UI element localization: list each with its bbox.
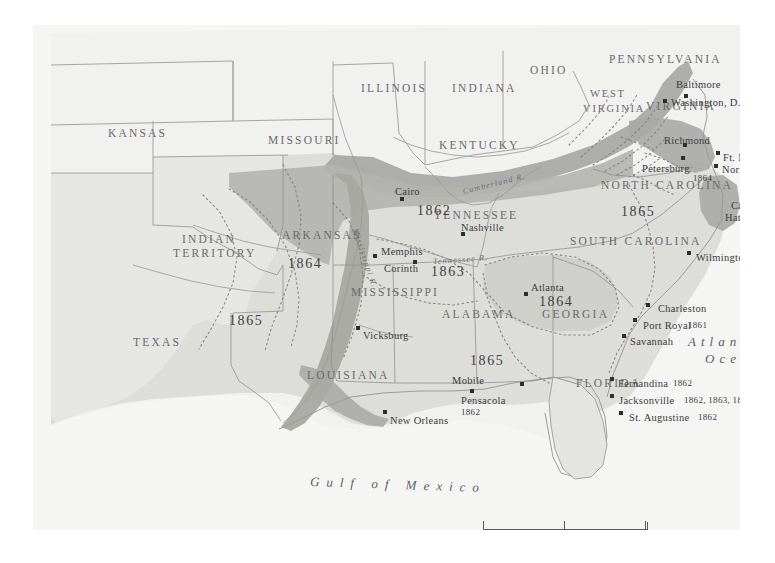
state-label-west: WEST xyxy=(590,89,626,100)
city-label-petersburg: Petersburg xyxy=(642,164,690,175)
city-label-jacksonville: Jacksonville xyxy=(619,396,675,407)
city-year-2: 1864 xyxy=(693,174,712,183)
civil-war-map: KANSASMISSOURIILLINOISINDIANAOHIOPENNSYL… xyxy=(33,25,740,530)
state-label-alabama: ALABAMA xyxy=(442,309,516,321)
city-marker-vicksburg xyxy=(356,326,360,330)
campaign-year-1864-2: 1864 xyxy=(288,257,322,271)
city-label-washington-d-c: Washington, D.C. xyxy=(671,98,740,109)
city-marker-washington-d-c xyxy=(663,99,667,103)
campaign-year-1864-4: 1864 xyxy=(539,295,573,309)
state-label-indiana: INDIANA xyxy=(452,83,517,95)
campaign-year-1865-6: 1865 xyxy=(621,205,655,219)
water-label-atlantic: Atlantic xyxy=(688,335,740,348)
state-label-texas: TEXAS xyxy=(133,337,181,349)
city-label-ft-monroe: Ft. Monroe xyxy=(723,153,740,164)
state-label-louisiana: LOUISIANA xyxy=(307,370,389,382)
city-marker-st-augustine xyxy=(619,411,623,415)
water-label-ocean: Ocean xyxy=(705,352,740,365)
state-label-virginia: VIRGINIA xyxy=(583,104,645,115)
city-label-st-augustine: St. Augustine xyxy=(629,413,690,424)
city-label-charleston: Charleston xyxy=(658,304,707,315)
city-label-port-royal: Port Royal xyxy=(643,321,691,332)
state-label-indian: INDIAN xyxy=(182,234,236,246)
state-label-missouri: MISSOURI xyxy=(268,135,341,147)
city-marker-richmond xyxy=(683,143,687,147)
city-label-richmond: Richmond xyxy=(664,136,710,147)
city-marker-port-royal xyxy=(633,318,637,322)
city-marker-new-orleans xyxy=(383,410,387,414)
city-label-mobile: Mobile xyxy=(452,376,484,387)
city-marker-charleston xyxy=(646,303,650,307)
city-label-vicksburg: Vicksburg xyxy=(363,331,409,342)
city-label-fernandina: Fernandina xyxy=(618,379,668,390)
city-label-baltimore: Baltimore xyxy=(676,80,721,91)
city-label-nashville: Nashville xyxy=(461,223,504,234)
city-marker-atlanta xyxy=(524,292,528,296)
city-label-new-orleans: New Orleans xyxy=(390,416,448,427)
state-label-kansas: KANSAS xyxy=(108,128,167,140)
city-label-hatteras: Hatteras xyxy=(725,213,740,224)
state-label-south-carolina: SOUTH CAROLINA xyxy=(570,236,701,248)
city-marker-wilmington xyxy=(687,251,691,255)
scale-tick-100 xyxy=(564,521,565,529)
city-marker-jacksonville xyxy=(610,394,614,398)
city-label-corinth: Corinth xyxy=(384,264,418,275)
city-label-atlanta: Atlanta xyxy=(531,283,564,294)
city-marker-fernandina xyxy=(610,377,614,381)
state-label-north-carolina: NORTH CAROLINA xyxy=(601,180,733,192)
state-label-pennsylvania: PENNSYLVANIA xyxy=(609,54,722,66)
city-year-8: 1862 xyxy=(461,408,480,417)
city-marker-memphis xyxy=(373,254,377,258)
map-screenshot: KANSASMISSOURIILLINOISINDIANAOHIOPENNSYL… xyxy=(0,0,775,563)
city-year-5: 1862 xyxy=(673,379,692,388)
campaign-year-1865-3: 1865 xyxy=(229,314,263,328)
scale-tick-200 xyxy=(645,521,646,529)
city-label-norfolk: Norfolk xyxy=(722,165,740,176)
city-label-pensacola: Pensacola xyxy=(461,396,506,407)
city-label-savannah: Savannah xyxy=(630,337,673,348)
city-marker-pensacola xyxy=(520,382,524,386)
campaign-year-1862-0: 1862 xyxy=(417,204,451,218)
city-year-6: 1862, 1863, 1864 xyxy=(684,396,740,405)
state-label-mississippi: MISSISSIPPI xyxy=(351,287,439,299)
city-label-memphis: Memphis xyxy=(381,247,423,258)
state-label-territory: TERRITORY xyxy=(173,248,256,260)
city-marker-corinth xyxy=(413,260,417,264)
state-label-arkansas: ARKANSAS xyxy=(282,230,362,242)
city-marker-nashville xyxy=(461,232,465,236)
state-label-kentucky: KENTUCKY xyxy=(439,140,520,152)
campaign-year-1865-5: 1865 xyxy=(470,354,504,368)
state-label-ohio: OHIO xyxy=(530,65,568,77)
city-marker-cairo xyxy=(400,197,404,201)
city-label-cairo: Cairo xyxy=(395,187,420,198)
city-marker-norfolk xyxy=(714,164,718,168)
city-marker-petersburg xyxy=(681,156,685,160)
scale-tick-0 xyxy=(483,521,484,529)
campaign-year-1863-1: 1863 xyxy=(431,265,465,279)
city-year-7: 1862 xyxy=(698,413,717,422)
scale-bar-line xyxy=(483,522,648,530)
city-marker-mobile xyxy=(470,389,474,393)
city-label-wilmington: Wilmington xyxy=(696,253,740,264)
map-geometry xyxy=(33,25,740,530)
city-marker-ft-monroe xyxy=(716,151,720,155)
state-label-georgia: GEORGIA xyxy=(542,309,609,321)
city-marker-savannah xyxy=(622,334,626,338)
state-label-illinois: ILLINOIS xyxy=(361,83,427,95)
city-label-cape: Cape xyxy=(731,201,740,212)
